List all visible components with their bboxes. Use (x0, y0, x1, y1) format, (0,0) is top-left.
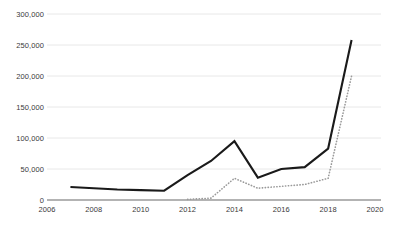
plot-area (0, 0, 393, 237)
series-lines (70, 40, 351, 199)
x-tick-label: 2012 (179, 205, 196, 214)
x-tick-label: 2006 (38, 205, 55, 214)
line-chart: 300,000250,000200,000150,000100,00050,00… (0, 0, 393, 237)
x-tick-label: 2018 (320, 205, 337, 214)
gridlines (47, 14, 381, 169)
x-axis: 20062008201020122014201620182020 (0, 205, 393, 221)
series-solid (70, 40, 351, 191)
x-tick-label: 2016 (273, 205, 290, 214)
x-tick-label: 2014 (226, 205, 243, 214)
x-tick-label: 2020 (366, 205, 383, 214)
x-tick-label: 2008 (85, 205, 102, 214)
x-tick-label: 2010 (132, 205, 149, 214)
